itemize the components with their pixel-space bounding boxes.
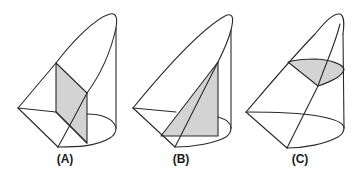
panel-b-solid — [133, 15, 233, 147]
panel-b-cross-section — [161, 62, 218, 136]
panel-a-left-slant — [18, 63, 56, 108]
panel-c-solid — [246, 14, 344, 148]
panel-b-base-back-arc — [218, 117, 231, 128]
panel-c-inner-diagonal — [287, 24, 340, 148]
panel-a-base-front-left — [18, 108, 58, 147]
panel-a-base-back-arc — [87, 114, 116, 128]
panel-c-label: (C) — [280, 152, 320, 166]
panel-c-right-edge — [343, 34, 344, 128]
figure-canvas — [0, 0, 362, 177]
panel-b-label: (B) — [161, 152, 201, 166]
panel-c-base-front-left — [246, 112, 287, 148]
panel-a-base-diameter — [18, 108, 56, 112]
panel-a-solid — [18, 14, 117, 147]
panel-c-cross-section — [288, 59, 344, 86]
panel-a-label: (A) — [45, 152, 85, 166]
panel-b-base-diameter — [133, 108, 176, 112]
panel-a-cross-section — [56, 63, 87, 143]
cross-section-figure: (A) (B) (C) — [0, 0, 362, 177]
